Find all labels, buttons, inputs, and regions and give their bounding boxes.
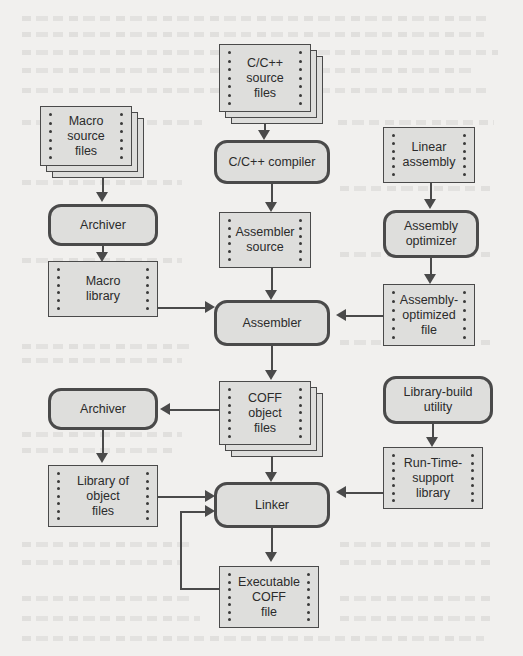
edge-optimizer-to-optfile-arrow — [424, 274, 436, 284]
edge-archiverobj-to-libobjects-arrow — [96, 453, 108, 463]
edge-coff-to-linker-arrow — [265, 472, 277, 482]
node-coff-object-files[interactable]: COFF object files — [219, 381, 311, 445]
edge-coff-to-archiver-line — [168, 409, 219, 411]
edge-assembler-to-coff-arrow — [265, 370, 277, 380]
node-runtime-support-library[interactable]: Run-Time- support library — [383, 447, 483, 509]
node-executable-coff-file[interactable]: Executable COFF file — [219, 566, 319, 628]
edge-feedback-bottom — [180, 588, 220, 590]
edge-macrosource-to-archiver-arrow — [96, 192, 108, 202]
edge-feedback-vertical — [180, 511, 182, 589]
punch-dots-right — [299, 388, 302, 438]
node-archiver-macro[interactable]: Archiver — [48, 204, 158, 246]
edge-coff-to-archiver-arrow — [160, 403, 170, 415]
node-label: Run-Time- support library — [388, 456, 479, 501]
diagram-canvas: C/C++ source files C/C++ compiler Assemb… — [0, 0, 523, 656]
node-assembly-optimized-file[interactable]: Assembly- optimized file — [383, 284, 475, 346]
edge-rtslib-to-linker-arrow — [336, 486, 346, 498]
edge-rtslib-to-linker-line — [344, 492, 383, 494]
node-label: C/C++ source files — [230, 56, 300, 101]
node-label: Linker — [255, 498, 289, 513]
edge-feedback-to-linker-line — [180, 511, 208, 513]
edge-libbuild-to-rtslib-arrow — [426, 437, 438, 447]
edge-libobjects-to-linker-line — [158, 496, 208, 498]
edge-c-source-to-compiler-arrow — [258, 130, 270, 140]
edge-linker-to-executable-arrow — [265, 552, 277, 562]
punch-dots-left — [228, 388, 231, 438]
node-assembly-optimizer[interactable]: Assembly optimizer — [383, 210, 479, 258]
edge-macrolib-to-assembler-line — [158, 307, 208, 309]
node-label: Archiver — [80, 402, 126, 417]
node-label: Assembler source — [219, 225, 310, 255]
node-c-source-files[interactable]: C/C++ source files — [219, 44, 311, 112]
node-assembler[interactable]: Assembler — [214, 300, 330, 346]
node-label: Assembly optimizer — [404, 219, 458, 249]
node-label: Linear assembly — [387, 140, 472, 170]
node-linker[interactable]: Linker — [214, 482, 330, 528]
node-label: Macro library — [70, 274, 137, 304]
edge-linearasm-to-optimizer-arrow — [424, 199, 436, 209]
node-linear-assembly[interactable]: Linear assembly — [383, 127, 475, 183]
node-label: Assembler — [242, 316, 301, 331]
edge-compiler-to-asmsource-line — [271, 184, 273, 204]
node-label: Assembly- optimized file — [384, 293, 474, 338]
punch-dots-right — [146, 472, 149, 520]
punch-dots-left — [57, 472, 60, 520]
node-macro-source-files[interactable]: Macro source files — [40, 106, 132, 166]
punch-dots-right — [146, 268, 149, 310]
edge-optfile-to-assembler-arrow — [336, 309, 346, 321]
edge-asmsource-to-assembler-line — [271, 268, 273, 292]
node-label: Library-build utility — [404, 385, 473, 415]
edge-linker-to-executable-line — [271, 528, 273, 554]
node-label: Library of object files — [61, 474, 145, 519]
node-macro-library[interactable]: Macro library — [48, 261, 158, 317]
node-label: COFF object files — [232, 391, 298, 436]
node-label: Archiver — [80, 218, 126, 233]
node-archiver-object[interactable]: Archiver — [48, 388, 158, 430]
node-label: Executable COFF file — [222, 575, 316, 620]
node-library-build-utility[interactable]: Library-build utility — [383, 376, 493, 424]
edge-compiler-to-asmsource-arrow — [265, 202, 277, 212]
node-c-compiler[interactable]: C/C++ compiler — [214, 140, 330, 184]
node-label: C/C++ compiler — [229, 155, 316, 170]
edge-asmsource-to-assembler-arrow — [265, 290, 277, 300]
node-assembler-source[interactable]: Assembler source — [219, 212, 311, 268]
punch-dots-left — [57, 268, 60, 310]
node-label: Macro source files — [51, 114, 121, 159]
edge-optfile-to-assembler-line — [344, 315, 383, 317]
node-library-of-object-files[interactable]: Library of object files — [48, 465, 158, 527]
